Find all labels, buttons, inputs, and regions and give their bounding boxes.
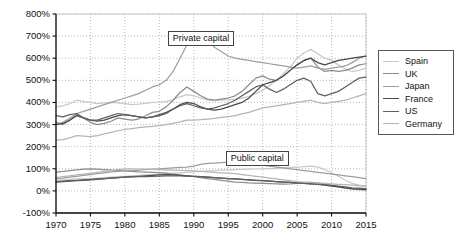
legend-swatch-japan: [383, 86, 399, 87]
y-axis-tick-label: 0%: [36, 185, 50, 196]
y-axis-tick-label: 200%: [26, 141, 50, 152]
legend-swatch-us: [383, 111, 399, 112]
legend-label: Germany: [405, 118, 442, 130]
legend-label: UK: [405, 68, 418, 80]
series-line-france-private: [56, 56, 366, 125]
annotation-public-capital: Public capital: [226, 151, 289, 166]
series-line-us-private: [56, 77, 366, 120]
chart-legend: SpainUKJapanFranceUSGermany: [378, 50, 454, 135]
y-axis-tick-label: 400%: [26, 96, 50, 107]
legend-swatch-germany: [383, 123, 399, 124]
legend-item-japan[interactable]: Japan: [379, 80, 453, 93]
series-line-spain-private: [56, 49, 366, 106]
legend-item-spain[interactable]: Spain: [379, 55, 453, 68]
legend-label: US: [405, 105, 418, 117]
legend-label: Japan: [405, 80, 430, 92]
legend-item-us[interactable]: US: [379, 105, 453, 118]
legend-label: Spain: [405, 55, 428, 67]
legend-item-germany[interactable]: Germany: [379, 118, 453, 131]
legend-swatch-uk: [383, 73, 399, 74]
y-axis-tick-label: 600%: [26, 52, 50, 63]
legend-label: France: [405, 93, 433, 105]
annotation-private-capital: Private capital: [168, 31, 235, 46]
y-axis-tick-label: 100%: [26, 163, 50, 174]
chart-figure: -100%0%100%200%300%400%500%600%700%800% …: [0, 0, 460, 248]
legend-item-uk[interactable]: UK: [379, 68, 453, 81]
x-axis-tick-label: 2015: [346, 219, 386, 230]
y-axis-tick-label: 700%: [26, 30, 50, 41]
series-line-japan-private: [56, 34, 366, 125]
y-axis-tick-label: -100%: [23, 207, 50, 218]
legend-item-france[interactable]: France: [379, 93, 453, 106]
legend-swatch-spain: [383, 61, 399, 62]
y-axis-tick-label: 500%: [26, 74, 50, 85]
y-axis-tick-label: 800%: [26, 8, 50, 19]
legend-swatch-france: [383, 98, 399, 99]
y-axis-tick-label: 300%: [26, 119, 50, 130]
